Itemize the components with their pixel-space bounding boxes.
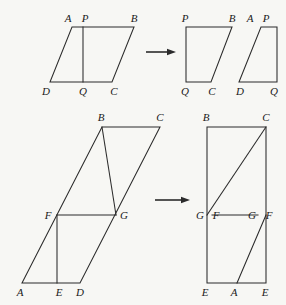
figure-bottom-result-0-label-e-8: E (261, 286, 269, 298)
figure-top-result-0: PBQC (181, 12, 236, 97)
figure-top-source-label-d-3: D (41, 85, 50, 97)
parallelogram-abcd-tall (22, 127, 160, 283)
figure-top-result-1-label-q-3: Q (270, 85, 278, 97)
figure-bottom-transform-arrow-head (181, 197, 190, 203)
figure-bottom-source-label-b-0: B (98, 111, 105, 123)
figure-bottom-result-0-label-e-6: E (201, 286, 209, 298)
figure-bottom-result-0: BCGFGFEAE (196, 111, 273, 298)
figure-bottom-source-label-g-3: G (120, 209, 128, 221)
figure-bottom-result-0-label-b-0: B (203, 111, 210, 123)
diagram-page: APBDQCPBQCAPDQBCFGAEDBCGFGFEAE (0, 0, 286, 305)
figure-bottom-source-label-c-1: C (156, 111, 164, 123)
figure-top-source-label-b-2: B (131, 12, 138, 24)
figure-bottom-source-label-a-4: A (16, 286, 24, 298)
figure-top-transform-arrow-head (167, 49, 176, 55)
figure-top-transform-arrow (146, 49, 176, 55)
segment-bg (102, 127, 116, 215)
figure-bottom-source-label-e-5: E (55, 286, 63, 298)
figure-bottom-result-0-label-c-1: C (262, 111, 270, 123)
figure-top-result-1: APDQ (235, 12, 278, 97)
figure-top-result-1-label-p-1: P (262, 12, 270, 24)
figure-bottom-source-label-f-2: F (44, 209, 52, 221)
figure-bottom-result-0-label-f-3: F (212, 209, 220, 221)
figure-bottom-source-label-d-6: D (75, 286, 84, 298)
figure-bottom-source: BCFGAED (16, 111, 165, 298)
figure-bottom-result-0-label-g-2: G (196, 209, 204, 221)
figure-top-result-0-label-p-0: P (181, 12, 189, 24)
figure-bottom-result-0-label-a-7: A (230, 286, 238, 298)
rectangle-pbcq (186, 27, 232, 82)
figure-top-source-label-q-4: Q (79, 85, 87, 97)
figure-bottom-result-0-label-f-5: F (265, 209, 273, 221)
figure-top-result-1-label-a-0: A (246, 12, 254, 24)
figure-top-result-0-label-c-3: C (208, 85, 216, 97)
rectangle-bcee (207, 127, 266, 283)
figure-top-source-label-a-0: A (64, 12, 72, 24)
piece-apqd (239, 27, 277, 82)
figure-top: APBDQCPBQCAPDQ (41, 12, 278, 97)
geometry-diagram: APBDQCPBQCAPDQBCFGAEDBCGFGFEAE (0, 0, 286, 305)
diagram-groups: APBDQCPBQCAPDQBCFGAEDBCGFGFEAE (16, 12, 278, 298)
figure-top-source-label-c-5: C (110, 85, 118, 97)
figure-bottom: BCFGAEDBCGFGFEAE (16, 111, 273, 298)
figure-top-result-0-label-q-2: Q (181, 85, 189, 97)
figure-top-result-1-label-d-2: D (235, 85, 244, 97)
figure-top-source-label-p-1: P (81, 12, 89, 24)
parallelogram-abcd (50, 27, 134, 82)
figure-top-source: APBDQC (41, 12, 138, 97)
figure-top-result-0-label-b-1: B (229, 12, 236, 24)
figure-bottom-result-0-label-g-4: G (248, 209, 256, 221)
diagonal-af (237, 215, 266, 283)
diagonal-gc (207, 127, 266, 215)
figure-bottom-transform-arrow (155, 197, 190, 203)
